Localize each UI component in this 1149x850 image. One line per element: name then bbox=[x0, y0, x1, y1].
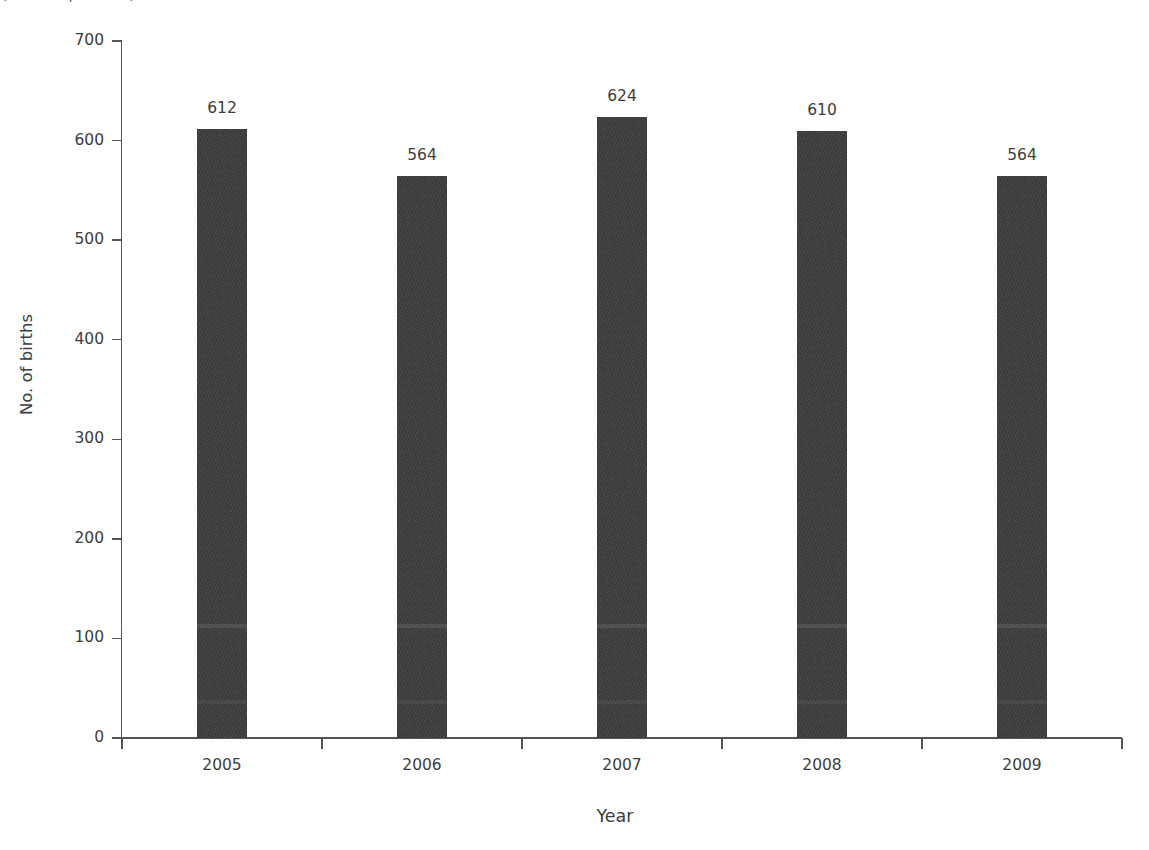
bar-value-label: 624 bbox=[562, 89, 682, 105]
y-axis-tick bbox=[112, 40, 122, 41]
x-axis-tick-label: 2008 bbox=[762, 758, 882, 774]
y-axis-tick bbox=[112, 439, 122, 440]
x-axis-tick-label: 2005 bbox=[162, 758, 282, 774]
x-axis-tick bbox=[521, 738, 522, 749]
y-axis-tick bbox=[112, 339, 122, 340]
y-axis-tick-label: 300 bbox=[40, 431, 104, 447]
y-axis-tick bbox=[112, 140, 122, 141]
bar-chart-figure: 0100200300400500600700 612564624610564 2… bbox=[0, 0, 1149, 850]
bar bbox=[797, 131, 847, 738]
bar-value-label: 610 bbox=[762, 103, 882, 119]
bar-value-label: 564 bbox=[362, 148, 482, 164]
y-axis-tick bbox=[112, 239, 122, 240]
y-axis-tick-label: 600 bbox=[40, 133, 104, 149]
scan-artifact-band bbox=[0, 700, 1149, 704]
y-axis-tick-label: 200 bbox=[40, 531, 104, 547]
x-axis-tick bbox=[921, 738, 922, 749]
x-axis-tick-label: 2009 bbox=[962, 758, 1082, 774]
y-axis-tick-label: 400 bbox=[40, 332, 104, 348]
x-axis-tick bbox=[321, 738, 322, 749]
y-axis-tick-label: 500 bbox=[40, 232, 104, 248]
x-axis-title: Year bbox=[0, 806, 1149, 826]
bar-value-label: 612 bbox=[162, 101, 282, 117]
y-axis-tick bbox=[112, 538, 122, 539]
bar bbox=[997, 176, 1047, 738]
scan-artifact-band bbox=[0, 624, 1149, 628]
bar-value-label: 564 bbox=[962, 148, 1082, 164]
y-axis-tick-label: 0 bbox=[40, 730, 104, 746]
x-axis-tick bbox=[1121, 738, 1122, 749]
x-axis-tick-label: 2007 bbox=[562, 758, 682, 774]
bar bbox=[197, 129, 247, 738]
y-axis-tick-label: 700 bbox=[40, 33, 104, 49]
y-axis-tick bbox=[112, 638, 122, 639]
x-axis-tick bbox=[121, 738, 122, 749]
x-axis-tick-label: 2006 bbox=[362, 758, 482, 774]
y-axis-line bbox=[121, 41, 122, 739]
y-axis-title: No. of births bbox=[17, 295, 36, 435]
x-axis-tick bbox=[721, 738, 722, 749]
bar bbox=[397, 176, 447, 738]
y-axis-tick-label: 100 bbox=[40, 630, 104, 646]
bar bbox=[597, 117, 647, 738]
